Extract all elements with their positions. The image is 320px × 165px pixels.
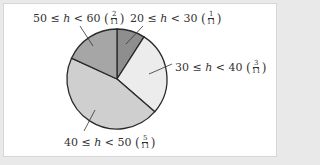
label-var: h bbox=[94, 137, 101, 149]
le-symbol: ≤ bbox=[82, 137, 91, 149]
label-low: 20 bbox=[130, 13, 144, 25]
paren-open: ( bbox=[135, 137, 140, 149]
fraction-den: 11 bbox=[252, 68, 261, 75]
fraction-den: 11 bbox=[207, 19, 216, 26]
label-50-60: 50 ≤ h < 60 (211) bbox=[33, 11, 124, 26]
label-var: h bbox=[63, 13, 70, 25]
label-high: 30 bbox=[184, 13, 198, 25]
fraction: 511 bbox=[141, 135, 150, 150]
paren-close: ) bbox=[262, 62, 267, 74]
lt-symbol: < bbox=[105, 137, 114, 149]
le-symbol: ≤ bbox=[51, 13, 60, 25]
label-high: 60 bbox=[87, 13, 101, 25]
paren-open: ( bbox=[201, 13, 206, 25]
fraction: 111 bbox=[207, 11, 216, 26]
label-low: 40 bbox=[64, 137, 78, 149]
lt-symbol: < bbox=[216, 62, 225, 74]
paren-close: ) bbox=[217, 13, 222, 25]
label-high: 50 bbox=[118, 137, 132, 149]
le-symbol: ≤ bbox=[193, 62, 202, 74]
label-high: 40 bbox=[229, 62, 243, 74]
paren-close: ) bbox=[120, 13, 125, 25]
label-20-30: 20 ≤ h < 30 (111) bbox=[130, 11, 221, 26]
label-30-40: 30 ≤ h < 40 (311) bbox=[175, 60, 266, 75]
lt-symbol: < bbox=[171, 13, 180, 25]
label-var: h bbox=[160, 13, 167, 25]
label-var: h bbox=[205, 62, 212, 74]
fraction-den: 11 bbox=[110, 19, 119, 26]
fraction-den: 11 bbox=[141, 143, 150, 150]
fraction: 311 bbox=[252, 60, 261, 75]
fraction: 211 bbox=[110, 11, 119, 26]
le-symbol: ≤ bbox=[148, 13, 157, 25]
label-low: 30 bbox=[175, 62, 189, 74]
paren-close: ) bbox=[151, 137, 156, 149]
paren-open: ( bbox=[104, 13, 109, 25]
label-40-50: 40 ≤ h < 50 (511) bbox=[64, 135, 155, 150]
label-low: 50 bbox=[33, 13, 47, 25]
lt-symbol: < bbox=[74, 13, 83, 25]
paren-open: ( bbox=[246, 62, 251, 74]
